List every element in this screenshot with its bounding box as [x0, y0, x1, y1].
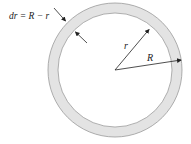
- diagram-svg: dr = R − r r R: [0, 0, 191, 144]
- thickness-label: dr = R − r: [9, 11, 50, 21]
- annulus-diagram: dr = R − r r R: [0, 0, 191, 144]
- outer-radius-label: R: [146, 52, 153, 63]
- thickness-arrow-outer: [54, 8, 66, 21]
- inner-radius-label: r: [124, 40, 128, 51]
